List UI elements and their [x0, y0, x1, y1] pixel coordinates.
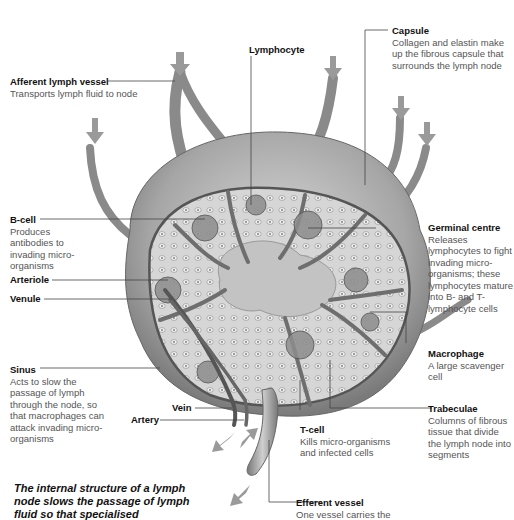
- label-vein: Vein: [172, 402, 192, 414]
- label-b-cell: B-cell Produces antibodies to invading m…: [10, 214, 95, 272]
- label-efferent-vessel: Efferent vessel One vessel carries the: [296, 497, 406, 520]
- label-lymphocyte: Lymphocyte: [249, 44, 305, 56]
- label-arteriole: Arteriole: [10, 274, 49, 286]
- label-macrophage: Macrophage A large scavenger cell: [428, 348, 514, 383]
- label-capsule: Capsule Collagen and elastin make up the…: [392, 25, 514, 71]
- label-afferent-lymph-vessel: Afferent lymph vessel Transports lymph f…: [10, 76, 150, 99]
- label-artery: Artery: [131, 414, 159, 426]
- label-venule: Venule: [10, 293, 41, 305]
- label-sinus: Sinus Acts to slow the passage of lymph …: [10, 364, 105, 445]
- label-trabeculae: Trabeculae Columns of fibrous tissue tha…: [428, 403, 514, 461]
- label-t-cell: T-cell Kills micro-organisms and infecte…: [300, 424, 400, 459]
- label-germinal-centre: Germinal centre Releases lymphocytes to …: [428, 222, 514, 314]
- figure-caption: The internal structure of a lymph node s…: [14, 482, 194, 520]
